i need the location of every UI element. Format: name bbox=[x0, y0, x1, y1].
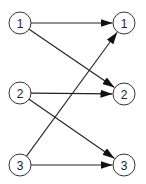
edges bbox=[26, 23, 117, 165]
node-label: 2 bbox=[17, 87, 24, 101]
left-node-2: 2 bbox=[9, 82, 31, 104]
left-node-1: 1 bbox=[9, 12, 31, 34]
edge-l1-r2 bbox=[29, 29, 114, 87]
node-label: 3 bbox=[121, 159, 128, 173]
node-label: 2 bbox=[121, 88, 128, 102]
right-node-1: 1 bbox=[113, 12, 135, 34]
node-label: 3 bbox=[17, 159, 24, 173]
node-label: 1 bbox=[121, 17, 128, 31]
right-node-3: 3 bbox=[113, 154, 135, 176]
right-node-2: 2 bbox=[113, 83, 135, 105]
edge-l2-r3 bbox=[29, 99, 115, 158]
node-label: 1 bbox=[17, 17, 24, 31]
left-node-3: 3 bbox=[9, 154, 31, 176]
mapping-diagram: 123123 bbox=[0, 0, 146, 184]
